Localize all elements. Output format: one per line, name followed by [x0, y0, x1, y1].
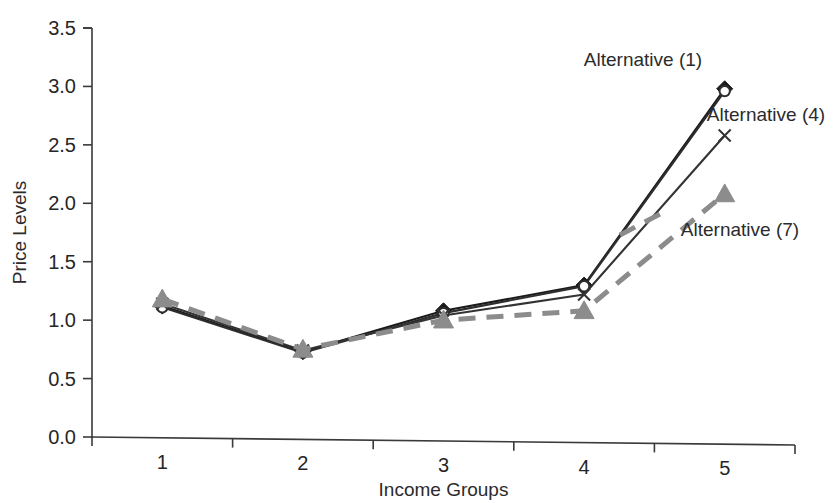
x-tick-label: 3 — [438, 454, 449, 476]
chart-axes — [83, 28, 795, 454]
y-tick-label: 2.5 — [48, 134, 76, 156]
y-tick-label: 3.0 — [48, 75, 76, 97]
y-tick-label: 3.5 — [48, 17, 76, 39]
x-axis-line — [92, 437, 795, 445]
x-tick-label: 4 — [579, 456, 590, 478]
y-tick-label: 1.5 — [48, 251, 76, 273]
x-tick-label: 2 — [297, 452, 308, 474]
marker-circle-open — [720, 86, 730, 96]
annotation-alternative-7: Alternative (7) — [681, 219, 799, 240]
y-tick-label: 0.0 — [48, 426, 76, 448]
x-tick-label: 1 — [157, 451, 168, 473]
marker-triangle — [715, 184, 735, 202]
marker-triangle — [152, 289, 172, 307]
y-tick-label: 2.0 — [48, 192, 76, 214]
annotation-leader-line — [620, 212, 664, 235]
y-tick-label: 1.0 — [48, 309, 76, 331]
marker-cross — [719, 130, 731, 142]
chart-annotations — [620, 212, 664, 235]
y-tick-label: 0.5 — [48, 368, 76, 390]
y-axis-title: Price Levels — [9, 181, 30, 285]
annotation-alternative-4: Alternative (4) — [707, 104, 825, 125]
x-tick-label: 5 — [719, 457, 730, 479]
annotation-alternative-1: Alternative (1) — [584, 49, 702, 70]
x-axis-title: Income Groups — [379, 479, 509, 500]
chart-container: 0.00.51.01.52.02.53.03.512345Income Grou… — [0, 0, 833, 503]
line-chart-plot: 0.00.51.01.52.02.53.03.512345Income Grou… — [0, 0, 833, 503]
